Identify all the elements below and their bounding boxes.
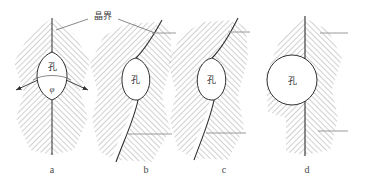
figure-svg: 孔 φ 孔 孔 (0, 0, 365, 185)
grain-boundary-label: 晶界 (94, 11, 112, 21)
caption-b: b (136, 164, 156, 175)
caption-a: a (42, 164, 62, 175)
panel-a-angle-label: φ (50, 84, 55, 94)
panel-a-pore-label: 孔 (48, 62, 57, 72)
pore-grain-boundary-figure: 孔 φ 孔 孔 (0, 0, 365, 185)
caption-d: d (297, 164, 317, 175)
panel-c-pore-label: 孔 (207, 75, 216, 85)
panel-b-pore-label: 孔 (131, 75, 140, 85)
caption-c: c (214, 164, 234, 175)
panel-d-pore-label: 孔 (288, 76, 297, 86)
